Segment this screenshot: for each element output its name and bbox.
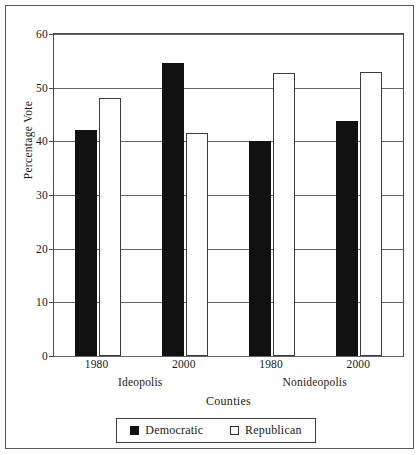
x-group-label-nonideopolis: Nonideopolis [283, 376, 347, 388]
x-tick-label-ideopolis-1980: 1980 [85, 358, 109, 370]
legend-swatch-democratic-icon [130, 426, 139, 435]
legend-swatch-republican-icon [230, 426, 239, 435]
y-tick-mark-60 [49, 34, 54, 35]
y-axis-title: Percentage Vote [22, 80, 34, 200]
gridline-60 [54, 34, 403, 35]
bar-republican-ideopolis-2000 [186, 133, 208, 356]
y-tick-label-60: 60 [36, 28, 48, 40]
x-group-label-ideopolis: Ideopolis [118, 376, 163, 388]
legend-label-republican: Republican [245, 423, 302, 438]
bar-democratic-nonideopolis-1980 [249, 141, 271, 356]
legend-entry-republican: Republican [230, 423, 302, 438]
x-tick-label-nonideopolis-2000: 2000 [346, 358, 370, 370]
y-tick-mark-50 [49, 88, 54, 89]
y-tick-label-40: 40 [36, 135, 48, 147]
y-tick-mark-20 [49, 249, 54, 250]
y-tick-label-30: 30 [36, 189, 48, 201]
x-tick-label-ideopolis-2000: 2000 [172, 358, 196, 370]
gridline-50 [54, 88, 403, 89]
gridline-0 [54, 356, 403, 357]
y-tick-mark-30 [49, 195, 54, 196]
y-tick-mark-40 [49, 141, 54, 142]
x-axis-title: Counties [53, 394, 404, 409]
y-tick-mark-10 [49, 302, 54, 303]
bar-democratic-ideopolis-2000 [162, 63, 184, 356]
legend-entry-democratic: Democratic [130, 423, 203, 438]
y-tick-label-10: 10 [36, 296, 48, 308]
bar-republican-ideopolis-1980 [99, 98, 121, 356]
y-tick-mark-0 [49, 356, 54, 357]
plot-area: 6050403020100 [53, 33, 404, 357]
plot-inner-surface: 6050403020100 [54, 34, 403, 356]
y-tick-label-50: 50 [36, 82, 48, 94]
chart-legend: DemocraticRepublican [116, 418, 316, 443]
legend-label-democratic: Democratic [145, 423, 203, 438]
y-tick-label-0: 0 [42, 350, 48, 362]
y-tick-label-20: 20 [36, 243, 48, 255]
bar-democratic-ideopolis-1980 [75, 130, 97, 356]
bar-republican-nonideopolis-2000 [360, 72, 382, 356]
figure-frame: 6050403020100 Percentage Vote 19802000Id… [5, 5, 414, 449]
bar-democratic-nonideopolis-2000 [336, 121, 358, 356]
x-tick-label-nonideopolis-1980: 1980 [259, 358, 283, 370]
bar-republican-nonideopolis-1980 [273, 73, 295, 356]
